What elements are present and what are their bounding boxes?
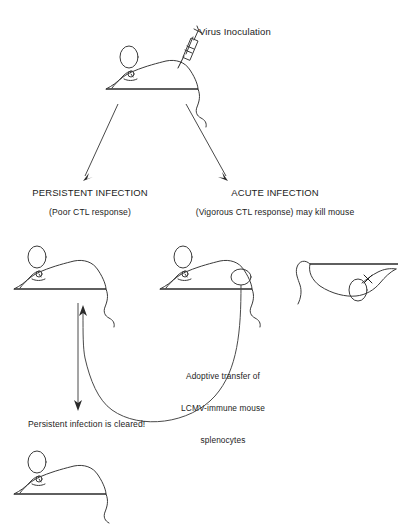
x-eye-icon [364,275,372,283]
mouse-donor-spleen-icon [160,246,260,327]
adoptive-transfer-label: Adoptive transfer of LCMV-immune mouse s… [175,349,271,468]
diagram-canvas: Virus Inoculation PERSISTENT INFECTION (… [0,0,405,525]
persistent-infection-title: PERSISTENT INFECTION [0,187,180,199]
virus-inoculation-label: Virus Inoculation [199,26,271,38]
mouse-dead-icon [296,261,398,304]
acute-infection-subtitle: (Vigorous CTL response) may kill mouse [157,207,393,218]
adoptive-transfer-line-2: LCMV-immune mouse [175,403,271,414]
arrow-to-persistent-icon [83,104,118,181]
arrow-down-outcome-icon [74,303,82,411]
acute-infection-title: ACUTE INFECTION [185,187,365,199]
infection-cleared-label: Persistent infection is cleared! [28,419,145,430]
adoptive-transfer-line-1: Adoptive transfer of [175,371,271,382]
persistent-infection-subtitle: (Poor CTL response) [0,207,180,218]
adoptive-transfer-line-3: splenocytes [175,435,271,446]
mouse-cleared-icon [14,451,109,523]
arrow-to-acute-icon [186,104,228,181]
mouse-persistent-icon [14,246,114,327]
